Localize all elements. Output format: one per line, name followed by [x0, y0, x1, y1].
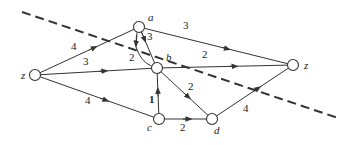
edge-weight-label: 2	[129, 51, 135, 63]
edge-b-d	[161, 72, 208, 116]
edge-weight-label: 3	[147, 30, 153, 42]
edge-weight-label: 2	[180, 121, 186, 133]
node-label: b	[166, 51, 172, 63]
edge-z_src-b	[40, 68, 151, 74]
edge-weight-label: 3	[83, 55, 89, 67]
node-z_src	[30, 70, 41, 81]
node-label: d	[214, 124, 220, 136]
node-a	[134, 22, 145, 33]
node-z_sink	[288, 60, 299, 71]
edge-d-z_sink	[217, 68, 289, 116]
edge-z_src-c	[40, 77, 154, 117]
edge-c-b	[157, 73, 159, 113]
node-label: c	[147, 121, 152, 133]
edge-weight-label: 4	[85, 94, 91, 106]
edge-weight-label: 4	[71, 40, 77, 52]
node-b	[152, 63, 163, 74]
edge-weight-label: 4	[243, 102, 249, 114]
node-label: a	[148, 11, 154, 23]
node-label: z	[20, 69, 26, 81]
edge-weight-label: 2	[188, 80, 194, 92]
node-d	[207, 114, 218, 125]
edge-weight-label: 2	[202, 48, 208, 60]
edge-weight-label: 3	[183, 19, 189, 31]
node-c	[154, 114, 165, 125]
flow-network-diagram: 43432322124zabcdz	[0, 0, 355, 145]
edges	[40, 22, 288, 120]
edge-weight-label: 1	[149, 93, 155, 105]
node-label: z	[303, 59, 309, 71]
